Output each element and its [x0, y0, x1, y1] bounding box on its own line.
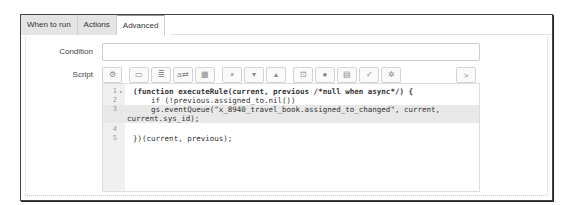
- comment-icon[interactable]: ▭: [129, 67, 149, 83]
- business-rule-form: When to run Actions Advanced Condition S…: [20, 14, 553, 201]
- code-text: })(current, previous);: [133, 134, 232, 143]
- line-number: 5: [103, 134, 117, 143]
- line-number: 4: [103, 125, 117, 134]
- tab-advanced[interactable]: Advanced: [117, 15, 166, 36]
- tab-actions[interactable]: Actions: [78, 15, 117, 35]
- code-line: 4: [103, 125, 479, 134]
- search-icon[interactable]: ⌕: [222, 67, 242, 83]
- fullscreen-icon[interactable]: ⊡: [293, 67, 313, 83]
- line-number: 1: [103, 87, 117, 96]
- syntax-check-icon[interactable]: ✓: [359, 67, 379, 83]
- tab-bar: When to run Actions Advanced: [21, 15, 165, 35]
- script-editor[interactable]: 1 ▾ (function executeRule(current, previ…: [102, 83, 480, 192]
- line-number: 3: [103, 105, 117, 114]
- replace-all-icon[interactable]: ▦: [195, 67, 215, 83]
- fold-icon[interactable]: ▾: [119, 87, 123, 96]
- settings-icon[interactable]: ✲: [381, 67, 401, 83]
- code-text: (function executeRule(current, previous …: [133, 87, 413, 96]
- tab-divider: [171, 34, 552, 35]
- line-number: 2: [103, 96, 117, 105]
- code-text: gs.eventQueue("x_8940_travel_book.assign…: [133, 105, 440, 114]
- code-text: if (!previous.assigned_to.nil()): [133, 96, 296, 105]
- replace-icon[interactable]: a⇄: [173, 67, 193, 83]
- code-line: 5 })(current, previous);: [103, 134, 479, 143]
- code-line: 1 ▾ (function executeRule(current, previ…: [103, 87, 479, 96]
- condition-label: Condition: [33, 47, 93, 56]
- condition-input[interactable]: [102, 43, 480, 61]
- code-text: current.sys_id);: [127, 114, 199, 123]
- format-code-icon[interactable]: ≣: [151, 67, 171, 83]
- tab-when-to-run[interactable]: When to run: [21, 15, 78, 35]
- script-toolbar: ⚙ ▭ ≣ a⇄ ▦ ⌕ ▾ ▴ ⊡ ● ▤ ✓ ✲ >: [102, 66, 478, 83]
- save-icon[interactable]: ▤: [337, 67, 357, 83]
- help-icon[interactable]: ●: [315, 67, 335, 83]
- search-previous-icon[interactable]: ▴: [266, 67, 286, 83]
- code-line-active: 3 gs.eventQueue("x_8940_travel_book.assi…: [103, 105, 479, 114]
- search-next-icon[interactable]: ▾: [244, 67, 264, 83]
- script-label: Script: [33, 70, 93, 79]
- expand-icon[interactable]: >: [456, 67, 476, 83]
- code-line-wrap: current.sys_id);: [103, 114, 479, 123]
- code-line: 2 if (!previous.assigned_to.nil()): [103, 96, 479, 105]
- script-debugger-icon[interactable]: ⚙: [102, 67, 122, 83]
